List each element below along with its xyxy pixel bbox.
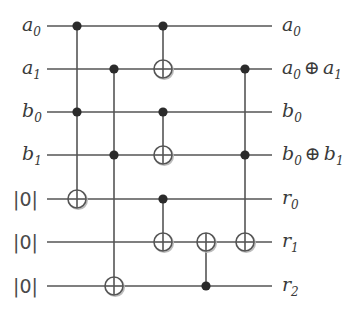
quantum-circuit-diagram: a0a1b0b1|0||0||0| a0a0⊕a1b0b0⊕b1r0r1r2: [0, 0, 356, 311]
control-dot-icon: [158, 194, 167, 203]
output-label-a1: a0⊕a1: [282, 56, 342, 82]
control-dot-icon: [109, 64, 118, 73]
output-label-a0: a0: [282, 13, 301, 39]
output-label-r2: r2: [282, 273, 299, 299]
input-label-r0: |0|: [13, 188, 38, 211]
control-dot-icon: [72, 107, 81, 116]
control-dot-icon: [240, 64, 249, 73]
input-label-b1: b1: [22, 142, 42, 168]
output-label-r0: r0: [282, 186, 299, 212]
input-label-r2: |0|: [13, 275, 38, 298]
cnot-target-icon: [197, 233, 216, 252]
cnot-target-icon: [68, 190, 87, 209]
control-dot-icon: [72, 21, 81, 30]
cnot-target-icon: [105, 277, 124, 296]
control-dot-icon: [158, 21, 167, 30]
control-dot-icon: [201, 281, 210, 290]
output-labels: a0a0⊕a1b0b0⊕b1r0r1r2: [282, 13, 344, 299]
output-label-b0: b0: [282, 99, 302, 125]
gates: [68, 21, 255, 296]
cnot-target-icon: [154, 146, 173, 165]
input-label-a0: a0: [22, 13, 41, 39]
input-labels: a0a1b0b1|0||0||0|: [13, 13, 42, 298]
control-dot-icon: [158, 107, 167, 116]
output-label-b1: b0⊕b1: [282, 142, 344, 168]
input-label-a1: a1: [22, 56, 41, 82]
cnot-target-icon: [236, 233, 255, 252]
output-label-r1: r1: [282, 229, 299, 255]
control-dot-icon: [109, 150, 118, 159]
input-label-r1: |0|: [13, 231, 38, 254]
cnot-target-icon: [154, 233, 173, 252]
input-label-b0: b0: [22, 99, 42, 125]
cnot-target-icon: [154, 60, 173, 79]
control-dot-icon: [240, 150, 249, 159]
